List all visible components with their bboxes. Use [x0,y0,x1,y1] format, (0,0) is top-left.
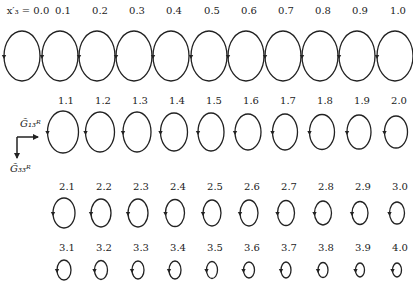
ellipse-item: 1.1 [45,95,78,153]
direction-arrow-icon [158,131,162,135]
direction-arrow-icon [390,269,394,273]
ellipse-item: 1.7 [270,95,297,150]
trajectory-ellipse [4,31,40,81]
ellipse-label: 1.4 [169,95,185,106]
ellipse-item: 3.2 [92,242,112,280]
ellipse-label: 0.5 [204,5,220,16]
ellipse-item: 2.7 [275,181,297,226]
ellipse-label: 2.5 [207,181,223,192]
direction-arrow-icon [89,212,93,216]
ellipse-label: 3.8 [318,242,334,253]
direction-arrow-icon [126,212,130,216]
trajectory-ellipse [390,202,405,224]
ellipse-label: 4.0 [392,242,408,253]
direction-arrow-icon [307,131,311,135]
vertical-axis-label: G̃₃₃ᴿ [10,163,31,174]
ellipse-item: 0.6 [226,5,264,81]
trajectory-ellipse [347,115,371,149]
ellipse-label: 2.6 [244,181,260,192]
trajectory-ellipse [191,31,227,81]
ellipse-item: 2.8 [312,181,334,225]
trajectory-ellipse [273,114,298,150]
ellipse-item: 2.2 [89,181,112,227]
trajectory-ellipse [161,113,188,151]
trajectory-ellipse [53,198,75,228]
trajectory-ellipse [377,31,413,81]
trajectory-ellipse [48,111,79,153]
ellipse-item: 0.8 [300,5,338,81]
ellipse-label: 1.0 [390,5,406,16]
ellipse-item: 0.5 [189,5,227,81]
trajectory-ellipse [86,112,115,152]
trajectory-ellipse [278,201,295,226]
direction-arrow-icon [130,269,134,273]
ellipse-label: 0.4 [166,5,182,16]
ellipse-grid: x′₃ = 0.00.10.20.30.40.50.60.70.80.91.01… [2,5,413,280]
trajectory-ellipse [166,200,185,227]
ellipse-label: 0.8 [315,5,331,16]
ellipse-label: 1.5 [206,95,222,106]
ellipse-item: 3.7 [279,242,297,278]
direction-arrow-icon [163,212,167,216]
ellipse-label: 3.7 [281,242,297,253]
ellipse-label: 0.3 [129,5,145,16]
ellipse-item: 3.1 [55,242,75,280]
direction-arrow-icon [270,131,274,135]
ellipse-label: 1.3 [132,95,148,106]
direction-arrow-icon [241,269,245,273]
trajectory-ellipse [235,114,261,150]
trajectory-ellipse [339,31,375,81]
ellipse-item: 3.3 [130,242,149,279]
ellipse-label: 2.8 [318,181,334,192]
ellipse-item: 3.4 [167,242,186,279]
ellipse-item: 1.6 [233,95,261,150]
ellipse-label: 2.3 [133,181,149,192]
ellipse-item: 1.8 [307,95,334,150]
trajectory-ellipse [240,200,258,226]
ellipse-item: 1.4 [158,95,187,151]
ellipse-item: 1.3 [121,95,151,152]
direction-arrow-icon [387,212,391,216]
ellipse-label: 3.9 [355,242,371,253]
ellipse-label: 1.7 [280,95,296,106]
direction-arrow-icon [167,269,171,273]
ellipse-item: 0.9 [337,5,375,81]
trajectory-ellipse [91,199,111,227]
ellipse-item: 3.9 [353,242,371,277]
direction-arrow-icon [204,269,208,273]
trajectory-ellipse [315,201,332,225]
direction-arrow-icon [382,131,386,135]
direction-arrow-icon [350,212,354,216]
ellipse-label: 2.1 [59,181,75,192]
axis-indicator: G̃₁₃ᴿ G̃₃₃ᴿ [10,118,41,174]
direction-arrow-icon [345,131,349,135]
direction-arrow-icon [275,212,279,216]
direction-arrow-icon [92,269,96,273]
ellipse-item: 0.2 [77,5,115,81]
ellipse-label: 2.7 [281,181,297,192]
trajectory-ellipse [153,31,189,81]
ellipse-item: 2.0 [382,95,407,148]
ellipse-label: 3.6 [244,242,260,253]
ellipse-label: x′₃ = 0.0 [7,5,50,16]
ellipse-label: 2.2 [96,181,112,192]
trajectory-ellipse [385,116,408,148]
trajectory-ellipse [123,112,151,152]
direction-arrow-icon [279,269,283,273]
trajectory-ellipse [116,31,152,81]
trajectory-ellipse [228,31,264,81]
ellipse-trajectory-figure: G̃₁₃ᴿ G̃₃₃ᴿ x′₃ = 0.00.10.20.30.40.50.60… [0,0,413,283]
ellipse-item: 0.7 [263,5,301,81]
trajectory-ellipse [95,261,108,280]
direction-arrow-icon [233,131,237,135]
ellipse-label: 0.1 [55,5,71,16]
trajectory-ellipse [310,115,335,150]
direction-arrow-icon [312,212,316,216]
direction-arrow-icon [121,131,125,135]
trajectory-ellipse [79,31,115,81]
trajectory-ellipse [128,199,148,227]
ellipse-label: 2.4 [170,181,186,192]
trajectory-ellipse [302,31,338,81]
ellipse-item: 4.0 [390,242,408,277]
direction-arrow-icon [55,269,59,273]
